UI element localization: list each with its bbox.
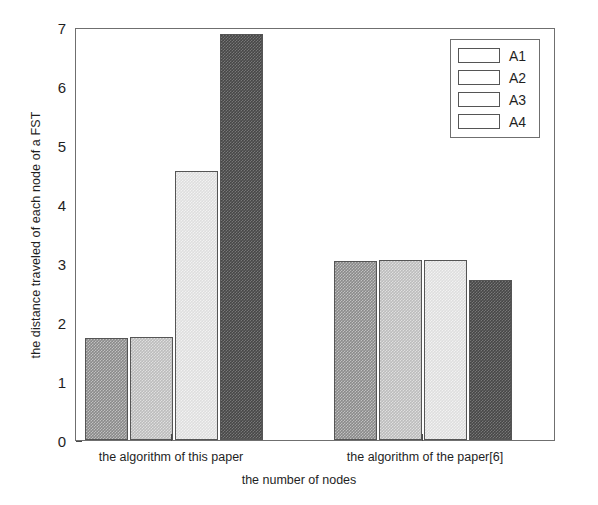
- x-tick-mark-group1: [171, 434, 172, 441]
- legend-item-A1: A1: [458, 46, 533, 65]
- y-tick-mark-0: [76, 441, 82, 442]
- legend-swatch-A2: [458, 70, 500, 85]
- bar-group1-A2: [130, 337, 173, 440]
- legend: A1 A2 A3 A4: [450, 39, 540, 138]
- legend-label-A4: A4: [509, 115, 526, 129]
- legend-label-A1: A1: [509, 49, 526, 63]
- legend-item-A3: A3: [458, 90, 533, 109]
- bar-group1-A1: [85, 338, 128, 440]
- legend-item-A4: A4: [458, 112, 533, 131]
- x-tick-mark-group2: [422, 434, 423, 441]
- y-tick-label-6: 6: [44, 80, 66, 95]
- bar-group1-A4: [220, 34, 263, 440]
- bar-group2-A1: [334, 261, 377, 440]
- bar-group1-A3: [175, 171, 218, 440]
- y-tick-label-0: 0: [44, 434, 66, 449]
- bar-group2-A3: [424, 260, 467, 440]
- x-tick-label-group1: the algorithm of this paper: [99, 450, 244, 464]
- legend-swatch-A1: [458, 48, 500, 63]
- x-axis-title: the number of nodes: [0, 473, 598, 487]
- bar-group2-A4: [469, 280, 512, 440]
- y-tick-label-7: 7: [44, 21, 66, 36]
- bar-chart-figure: the distance traveled of each node of a …: [0, 0, 598, 505]
- y-tick-label-1: 1: [44, 375, 66, 390]
- legend-swatch-A3: [458, 92, 500, 107]
- legend-swatch-A4: [458, 114, 500, 129]
- legend-item-A2: A2: [458, 68, 533, 87]
- y-tick-label-4: 4: [44, 198, 66, 213]
- legend-label-A2: A2: [509, 71, 526, 85]
- y-tick-label-2: 2: [44, 316, 66, 331]
- x-tick-label-group2: the algorithm of the paper[6]: [347, 450, 503, 464]
- plot-area: A1 A2 A3 A4: [75, 28, 555, 441]
- y-axis-title: the distance traveled of each node of a …: [29, 40, 43, 430]
- bar-group2-A2: [379, 260, 422, 440]
- y-tick-label-5: 5: [44, 139, 66, 154]
- y-tick-label-3: 3: [44, 257, 66, 272]
- legend-label-A3: A3: [509, 93, 526, 107]
